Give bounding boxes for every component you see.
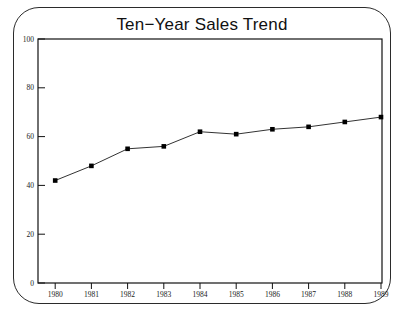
data-point-marker [234,132,239,137]
page-title: Ten−Year Sales Trend [0,15,404,35]
x-tick-label-1989: 1989 [374,290,389,299]
x-tick-label-1986: 1986 [265,290,280,299]
x-tick-label-1987: 1987 [301,290,316,299]
data-point-marker [379,115,384,120]
y-tick-label-80: 80 [27,83,35,92]
x-axis-labels: 1980 1981 1982 1983 1984 1985 1986 1987 … [48,290,389,299]
data-point-marker [53,178,58,183]
x-tick-label-1988: 1988 [337,290,352,299]
data-point-marker [270,127,275,132]
y-tick-label-20: 20 [27,230,35,239]
x-tick-label-1985: 1985 [229,290,244,299]
x-tick-label-1980: 1980 [48,290,63,299]
data-point-marker [125,147,130,152]
data-point-marker [343,120,348,125]
y-axis-labels: 0 20 40 60 80 100 [23,35,35,288]
y-tick-label-0: 0 [30,279,34,288]
x-axis-ticks [55,283,381,289]
x-tick-label-1981: 1981 [84,290,99,299]
y-tick-label-40: 40 [27,181,35,190]
y-tick-label-60: 60 [27,132,35,141]
x-tick-label-1984: 1984 [193,290,208,299]
data-point-marker [198,129,203,134]
y-tick-label-100: 100 [23,35,35,44]
plot-frame [38,39,382,283]
data-point-marker [306,125,311,130]
data-point-marker [162,144,167,149]
x-tick-label-1982: 1982 [120,290,135,299]
data-point-marker [89,164,94,169]
chart-screenshot: 0 20 40 60 80 100 1980 1981 1982 1983 19… [0,0,404,316]
plot-area: 0 20 40 60 80 100 1980 1981 1982 1983 19… [0,0,404,316]
line-chart-svg: 0 20 40 60 80 100 1980 1981 1982 1983 19… [0,0,404,316]
x-tick-label-1983: 1983 [156,290,171,299]
